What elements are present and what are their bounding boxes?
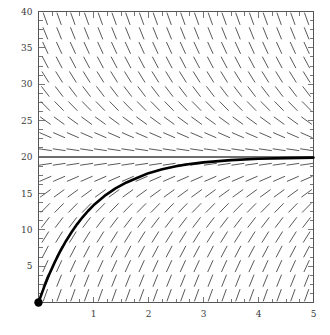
- slope-segment: [276, 246, 282, 257]
- slope-segment: [291, 13, 295, 25]
- x-tick-label: 4: [256, 309, 262, 319]
- slope-segment: [191, 133, 203, 138]
- slope-segment: [53, 149, 66, 151]
- slope-segment: [222, 275, 227, 287]
- slope-segment: [124, 217, 132, 227]
- slope-segment: [220, 86, 228, 96]
- slope-segment: [166, 57, 172, 68]
- slope-segment: [138, 86, 146, 96]
- slope-segment: [261, 86, 269, 96]
- slope-segment: [177, 176, 189, 181]
- slope-segment: [96, 86, 104, 96]
- slope-segment: [83, 232, 90, 243]
- slope-segment: [276, 260, 281, 272]
- slope-segment: [192, 101, 201, 110]
- slope-segment: [249, 275, 254, 287]
- slope-segment: [71, 289, 75, 301]
- slope-segment: [69, 86, 77, 96]
- slope-segment: [151, 217, 159, 227]
- slope-segment: [303, 232, 310, 243]
- slope-segment: [97, 246, 103, 257]
- slope-segment: [125, 275, 130, 287]
- slope-segment: [286, 163, 299, 165]
- slope-segment: [219, 190, 230, 198]
- slope-segment: [304, 246, 310, 257]
- slope-segment: [153, 289, 157, 301]
- slope-segment: [232, 176, 244, 181]
- slope-segment: [300, 149, 313, 151]
- slope-segment: [69, 71, 76, 82]
- slope-segment: [208, 289, 212, 301]
- slope-segment: [290, 57, 296, 68]
- slope-segment: [249, 289, 253, 301]
- slope-segment: [246, 117, 257, 125]
- slope-segment: [139, 289, 143, 301]
- slope-segment: [81, 176, 93, 181]
- slope-segment: [139, 275, 144, 287]
- slope-segment: [39, 133, 51, 138]
- slope-segment: [98, 42, 103, 54]
- slope-segment: [152, 57, 158, 68]
- slope-segment: [110, 86, 118, 96]
- slope-segment: [110, 203, 119, 212]
- slope-segment: [190, 149, 203, 151]
- solution-curve-path: [39, 158, 314, 303]
- y-tick-label: 5: [27, 261, 33, 271]
- tick-labels: 12345510152025303540: [21, 7, 317, 319]
- slope-segment: [181, 13, 185, 25]
- slope-segment: [220, 217, 228, 227]
- slope-segment: [286, 149, 299, 151]
- slope-segment: [122, 133, 134, 138]
- slope-segment: [235, 260, 240, 272]
- slope-segment: [233, 203, 242, 212]
- slope-segment: [235, 42, 240, 54]
- slope-segment: [96, 203, 105, 212]
- slope-segment: [136, 190, 147, 198]
- slope-segment: [57, 275, 62, 287]
- slope-segment: [83, 217, 91, 227]
- slope-segment: [111, 57, 117, 68]
- slope-segment: [68, 117, 79, 125]
- slope-segment: [193, 217, 201, 227]
- y-tick-label: 40: [21, 7, 33, 17]
- slope-segment: [66, 149, 79, 151]
- slope-segment: [137, 203, 146, 212]
- slope-segment: [163, 163, 176, 165]
- slope-segment: [273, 176, 285, 181]
- slope-segment: [70, 275, 75, 287]
- slope-segment: [167, 27, 172, 39]
- slope-segment: [273, 163, 286, 165]
- slope-segment: [70, 27, 75, 39]
- slope-segment: [111, 71, 118, 82]
- slope-segment: [108, 133, 120, 138]
- slope-segment: [149, 133, 161, 138]
- slope-segment: [290, 42, 295, 54]
- slope-segment: [261, 217, 269, 227]
- slope-segment: [152, 232, 159, 243]
- slope-segment: [235, 275, 240, 287]
- slope-segment: [124, 86, 132, 96]
- slope-segment: [70, 42, 75, 54]
- slope-segment: [123, 190, 134, 198]
- slope-segment: [249, 13, 253, 25]
- slope-segment: [57, 27, 62, 39]
- slope-segment: [180, 260, 185, 272]
- slope-segment: [259, 176, 271, 181]
- slope-segment: [261, 203, 270, 212]
- slope-segment: [153, 260, 158, 272]
- slope-segment: [167, 289, 171, 301]
- slope-segment: [221, 57, 227, 68]
- slope-segment: [248, 232, 255, 243]
- slope-segment: [121, 149, 134, 151]
- slope-segment: [97, 71, 104, 82]
- initial-condition-point: [34, 298, 42, 306]
- slope-segment: [231, 149, 244, 151]
- slope-segment: [233, 101, 242, 110]
- slope-segment: [81, 133, 93, 138]
- slope-segment: [207, 246, 213, 257]
- slope-segment: [121, 163, 134, 165]
- slope-segment: [94, 133, 106, 138]
- slope-segment: [125, 57, 131, 68]
- slope-segment: [206, 217, 214, 227]
- slope-segment: [151, 203, 160, 212]
